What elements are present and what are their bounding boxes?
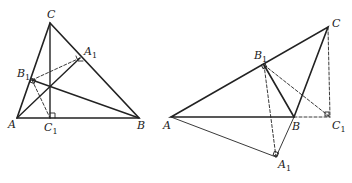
diagram-canvas: A B C A1 B1 C1 A B C A1 B1 C1 — [0, 0, 352, 183]
label-a1: A1 — [83, 45, 97, 60]
label-b1: B1 — [253, 49, 267, 64]
obtuse-triangle-figure — [171, 27, 330, 157]
label-a1: A1 — [277, 158, 291, 173]
acute-triangle-labels: A B C A1 B1 C1 — [7, 8, 145, 136]
label-a: A — [7, 118, 16, 131]
acute-triangle-figure — [17, 23, 139, 118]
label-c: C — [47, 8, 56, 21]
label-c1: C1 — [44, 121, 58, 136]
label-b: B — [136, 119, 145, 132]
dashed-c-c1 — [328, 27, 330, 117]
label-c1: C1 — [332, 119, 346, 134]
segment-a-a1 — [171, 117, 276, 157]
label-b: B — [291, 120, 300, 133]
altitude-a-a1 — [17, 58, 80, 118]
triangle-abc — [17, 23, 139, 118]
label-c: C — [332, 17, 341, 30]
dashed-b1-a1 — [264, 65, 276, 157]
dashed-b1-a1 — [32, 58, 80, 80]
triangle-abc — [171, 27, 328, 117]
altitude-b-b1 — [32, 80, 139, 118]
label-a: A — [162, 119, 171, 132]
segment-b1-b — [264, 65, 294, 117]
obtuse-triangle-labels: A B C A1 B1 C1 — [162, 17, 346, 173]
label-b1: B1 — [16, 67, 30, 82]
